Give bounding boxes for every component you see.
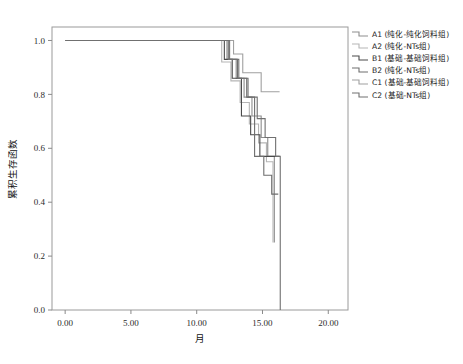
legend-item-label: C2 (基础-NTs组) [372, 89, 430, 100]
legend-step-icon [352, 29, 368, 38]
y-tick-label: 0.0 [34, 305, 46, 315]
x-tick-label: 15.00 [252, 318, 273, 328]
legend-item-label: A1 (纯化-纯化饲料组) [372, 28, 449, 39]
legend-item-label: A2 (纯化-NTs组) [372, 40, 430, 51]
y-tick-label: 0.8 [34, 90, 46, 100]
x-axis-title: 月 [195, 333, 205, 344]
legend-item-label: B2 (纯化-NTs组) [372, 64, 430, 75]
series-line-4 [65, 40, 279, 91]
legend-item-label: B1 (基础-基础饲料组) [372, 52, 449, 63]
legend-item-2: B1 (基础-基础饲料组) [352, 51, 449, 63]
y-tick-label: 0.6 [34, 143, 46, 153]
y-axis-title: 累积生存函数 [7, 139, 18, 199]
legend-item-0: A1 (纯化-纯化饲料组) [352, 27, 449, 39]
legend-item-5: C2 (基础-NTs组) [352, 88, 430, 100]
legend-step-icon [352, 53, 368, 62]
legend-item-label: C1 (基础-基础饲料组) [372, 76, 449, 87]
survival-chart-figure: 0.00.20.40.60.81.00.005.0010.0015.0020.0… [0, 0, 463, 364]
series-line-2 [65, 40, 279, 156]
series-line-3 [65, 40, 278, 194]
legend-step-icon [352, 90, 368, 99]
series-line-5 [65, 40, 280, 310]
legend-item-3: B2 (纯化-NTs组) [352, 64, 430, 76]
plot-frame [52, 27, 348, 310]
legend-item-4: C1 (基础-基础饲料组) [352, 76, 449, 88]
legend-step-icon [352, 65, 368, 74]
y-tick-label: 0.2 [34, 251, 45, 261]
legend-step-icon [352, 77, 368, 86]
legend-item-1: A2 (纯化-NTs组) [352, 39, 430, 51]
x-tick-label: 20.00 [318, 318, 339, 328]
x-tick-label: 5.00 [123, 318, 139, 328]
y-tick-label: 0.4 [34, 197, 46, 207]
y-axis-title-group: 累积生存函数 [7, 139, 18, 199]
x-tick-label: 0.00 [57, 318, 73, 328]
series-line-1 [65, 40, 273, 242]
legend-step-icon [352, 41, 368, 50]
y-tick-label: 1.0 [34, 36, 46, 46]
x-tick-label: 10.00 [187, 318, 208, 328]
